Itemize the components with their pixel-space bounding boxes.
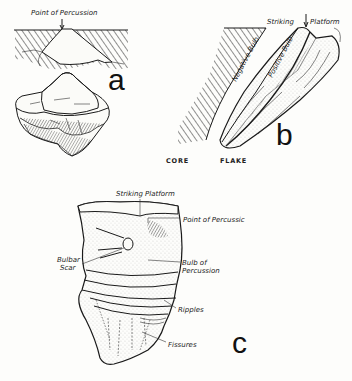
label-point-of-percussion-c: Point of Percussic (183, 216, 245, 224)
label-ripples: Ripples (178, 306, 204, 314)
label-platform-b: Platform (310, 18, 340, 26)
flake-anatomy-diagram: Point of Percussion a Negative Bulb (0, 0, 352, 381)
label-fissures: Fissures (168, 341, 197, 349)
label-bulb-of-line2: Percussion (182, 267, 220, 275)
panel-b: Negative Bulb Positive Bulb Striking Pla… (166, 14, 340, 165)
label-striking-platform-c: Striking Platform (116, 190, 175, 198)
label-bulbar-scar-line1: Bulbar (57, 256, 81, 264)
panel-c-flake-drawing (78, 202, 182, 365)
label-striking-b: Striking (267, 18, 294, 26)
label-bulb-of-line1: Bulb of (182, 259, 208, 267)
panel-b-letter: b (276, 118, 293, 151)
label-bulbar-scar-line2: Scar (60, 264, 77, 272)
label-core: CORE (166, 157, 189, 165)
panel-c-letter: c (232, 326, 247, 359)
panel-a: Point of Percussion a (14, 9, 128, 156)
label-point-of-percussion-a: Point of Percussion (31, 9, 97, 17)
panel-a-flake-drawing (16, 73, 110, 156)
panel-a-cross-section: Point of Percussion (14, 9, 128, 69)
panel-c: Striking Platform Point of Percussic Bul… (57, 190, 247, 364)
label-flake: FLAKE (220, 157, 247, 165)
panel-a-letter: a (108, 63, 125, 96)
